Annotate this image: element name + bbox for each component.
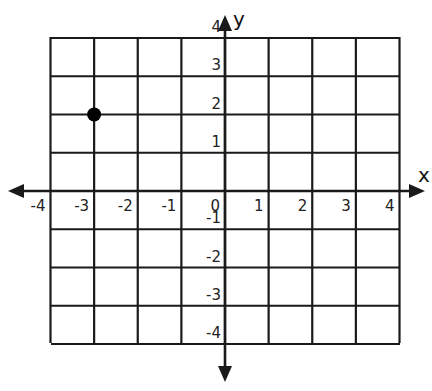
y-tick-label: 3 bbox=[211, 56, 221, 74]
y-tick-label: -1 bbox=[206, 209, 221, 227]
x-axis-label: x bbox=[418, 163, 430, 187]
x-tick-label: -3 bbox=[74, 197, 89, 215]
x-tick-label: -2 bbox=[118, 197, 133, 215]
data-point bbox=[87, 108, 101, 122]
arrow-down-icon bbox=[218, 366, 232, 382]
y-tick-label: 4 bbox=[211, 18, 221, 36]
y-tick-label: -4 bbox=[206, 324, 221, 342]
y-tick-label: 1 bbox=[211, 133, 221, 151]
y-tick-label: -3 bbox=[206, 286, 221, 304]
y-tick-label: -2 bbox=[206, 248, 221, 266]
coordinate-plane: xy-4-3-2-1012344321-1-2-3-4 bbox=[0, 0, 432, 391]
arrow-left-icon bbox=[8, 184, 24, 198]
x-tick-label: 3 bbox=[341, 197, 351, 215]
x-tick-label: 2 bbox=[298, 197, 308, 215]
x-tick-label: 4 bbox=[385, 197, 395, 215]
y-tick-label: 2 bbox=[211, 95, 221, 113]
x-tick-label: -1 bbox=[161, 197, 176, 215]
x-tick-label: 1 bbox=[254, 197, 264, 215]
x-tick-label: -4 bbox=[31, 197, 46, 215]
y-axis-label: y bbox=[233, 7, 245, 31]
